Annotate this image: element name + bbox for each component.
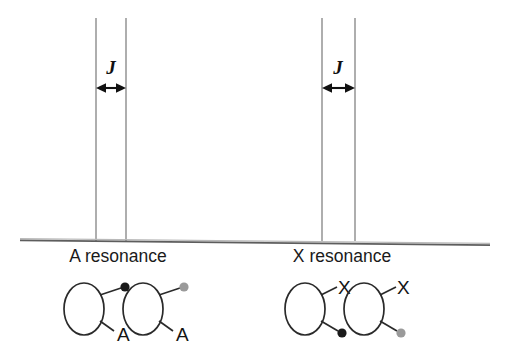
molecule-a-spin-alpha: A [64,282,130,345]
atom-label-x: X [338,277,351,298]
bond-to-spin-marker [159,288,180,295]
multiplet-a-resonance: J A resonance [69,18,166,266]
spin-marker-dot [337,328,346,337]
molecule-x-spin-alpha: X [285,277,351,338]
bond-to-spin-marker [321,321,338,331]
arrow-head-left-x [322,83,332,93]
bond-to-atom-label [100,321,114,331]
coupling-arrow-x [322,83,355,93]
coupling-arrow-a [96,83,126,93]
spin-marker-dot [396,328,405,337]
molecule-body-ellipse [344,283,384,335]
spectrum-baseline [20,239,490,246]
atom-label-x: X [397,277,410,298]
bond-to-spin-marker [380,321,397,331]
molecule-a-spin-beta: A [123,282,189,345]
arrow-head-right-a [116,83,126,93]
bond-to-atom-label [321,287,337,295]
nmr-spectrum-figure: J A resonance J X resonance [0,0,510,359]
bond-to-atom-label [159,321,173,331]
molecule-body-ellipse [64,283,104,335]
bond-to-spin-marker [100,288,121,295]
multiplet-x-resonance: J X resonance [293,18,391,266]
label-x-resonance: X resonance [293,246,391,266]
spin-marker-dot [179,282,188,291]
label-a-resonance: A resonance [69,246,166,266]
arrow-head-left-a [96,83,106,93]
figure-canvas: J A resonance J X resonance [0,0,510,359]
coupling-constant-label-x: J [332,57,343,78]
bond-to-atom-label [380,287,396,295]
molecule-body-ellipse [285,283,325,335]
coupling-constant-label-a: J [105,57,116,78]
molecule-body-ellipse [123,283,163,335]
atom-label-a: A [176,324,189,345]
arrow-head-right-x [345,83,355,93]
molecule-x-spin-beta: X [344,277,410,338]
